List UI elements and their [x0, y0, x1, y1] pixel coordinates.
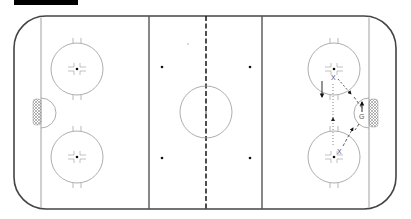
left-goal-net [33, 99, 41, 125]
goalie-label: G [359, 113, 364, 120]
neutral-zone-dot [249, 157, 252, 160]
neutral-zone-dot [161, 157, 164, 160]
skater-bottom-label: X [337, 148, 342, 155]
right-goal-net [369, 99, 378, 127]
skater-top-label: X [331, 74, 336, 81]
neutral-zone-dot [249, 66, 252, 69]
rink-boards [14, 16, 396, 209]
small-mark [187, 43, 188, 44]
neutral-zone-dot [161, 66, 164, 69]
center-faceoff-dot [205, 111, 207, 113]
hockey-rink: X G X [0, 0, 411, 219]
